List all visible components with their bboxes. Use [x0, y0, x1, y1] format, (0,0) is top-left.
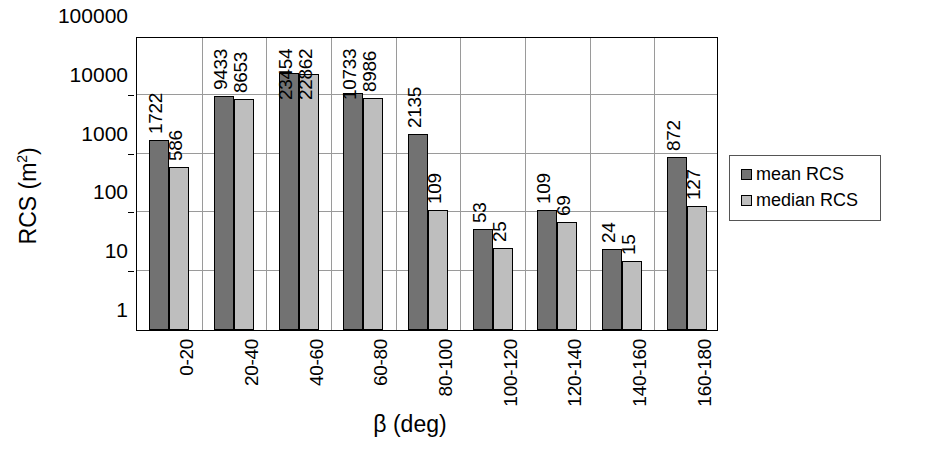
y-axis-title-main: RCS (m [15, 163, 41, 245]
y-axis-title-close: ) [15, 147, 41, 155]
bar-group: 94338653 [214, 38, 254, 330]
x-tick-label: 100-120 [501, 339, 520, 407]
y-tick-label: 100000 [8, 5, 128, 26]
bar-mean[interactable] [214, 96, 234, 330]
gridline-vertical [525, 38, 526, 330]
legend-item-mean-rcs[interactable]: mean RCS [741, 165, 844, 183]
y-tick-label: 10000 [8, 64, 128, 85]
bar-group: 2135109 [408, 38, 448, 330]
y-tick-mark [128, 95, 134, 96]
bar-mean[interactable] [537, 210, 557, 330]
gridline-vertical [460, 38, 461, 330]
y-tick-mark [128, 154, 134, 155]
bar-value-label: 109 [534, 173, 553, 204]
bar-mean[interactable] [149, 140, 169, 330]
bar-mean[interactable] [602, 249, 622, 330]
bar-median[interactable] [169, 167, 189, 330]
bar-median[interactable] [299, 74, 319, 330]
y-tick-mark [128, 212, 134, 213]
bar-group: 2345422862 [279, 38, 319, 330]
bar-value-label: 2135 [405, 87, 424, 128]
legend-swatch-mean-rcs [741, 169, 752, 180]
x-axis-title: β (deg) [330, 411, 490, 438]
bar-value-label: 586 [166, 130, 185, 161]
bar-median[interactable] [428, 210, 448, 330]
bar-group: 10969 [537, 38, 577, 330]
bar-median[interactable] [363, 98, 383, 330]
bar-group: 107338986 [343, 38, 383, 330]
bar-value-label: 24 [599, 222, 618, 243]
gridline-vertical [396, 38, 397, 330]
bar-mean[interactable] [408, 134, 428, 330]
y-axis-title-exponent: 2 [14, 155, 30, 163]
bar-group: 872127 [667, 38, 707, 330]
bar-value-label: 9433 [211, 49, 230, 90]
bar-value-label: 25 [490, 221, 509, 242]
x-tick-label: 20-40 [242, 339, 261, 386]
bar-mean[interactable] [279, 73, 299, 330]
x-tick-label: 140-160 [630, 339, 649, 407]
legend-label-median-rcs: median RCS [756, 191, 858, 209]
legend-item-median-rcs[interactable]: median RCS [741, 191, 858, 209]
plot-area: 1722586943386532345422862107338986213510… [136, 37, 718, 331]
bar-group: 1722586 [149, 38, 189, 330]
legend-label-mean-rcs: mean RCS [756, 165, 844, 183]
bar-value-label: 15 [619, 234, 638, 255]
bar-median[interactable] [557, 222, 577, 330]
x-tick-label: 60-80 [371, 339, 390, 386]
chart-canvas: 100000100001000100101 RCS (m2) 172258694… [0, 0, 930, 461]
gridline-vertical [590, 38, 591, 330]
y-tick-mark [128, 271, 134, 272]
gridline-vertical [266, 38, 267, 330]
bar-median[interactable] [687, 206, 707, 330]
bar-value-label: 8653 [231, 51, 250, 92]
legend: mean RCS median RCS [729, 155, 881, 221]
y-tick-label: 1 [8, 299, 128, 320]
bar-value-label: 8986 [360, 50, 379, 91]
bar-value-label: 23454 [276, 49, 295, 100]
bar-median[interactable] [622, 261, 642, 330]
bar-value-label: 10733 [340, 49, 359, 100]
x-tick-label: 80-100 [436, 339, 455, 396]
bar-value-label: 872 [664, 120, 683, 151]
legend-swatch-median-rcs [741, 195, 752, 206]
bar-group: 5325 [473, 38, 513, 330]
bar-value-label: 22862 [296, 49, 315, 100]
x-tick-label: 160-180 [695, 339, 714, 407]
bar-value-label: 127 [684, 169, 703, 200]
bar-median[interactable] [493, 248, 513, 330]
bar-mean[interactable] [473, 229, 493, 330]
x-tick-label: 40-60 [307, 339, 326, 386]
x-tick-label: 0-20 [177, 339, 196, 376]
bar-group: 2415 [602, 38, 642, 330]
x-tick-label: 120-140 [565, 339, 584, 407]
bar-value-label: 109 [425, 173, 444, 204]
gridline-vertical [331, 38, 332, 330]
bar-mean[interactable] [343, 93, 363, 330]
gridline-vertical [202, 38, 203, 330]
y-axis-title: RCS (m2) [14, 116, 42, 276]
bar-value-label: 69 [554, 195, 573, 216]
bar-value-label: 1722 [146, 93, 165, 134]
bar-median[interactable] [234, 99, 254, 331]
bar-value-label: 53 [470, 202, 489, 223]
gridline-vertical [654, 38, 655, 330]
